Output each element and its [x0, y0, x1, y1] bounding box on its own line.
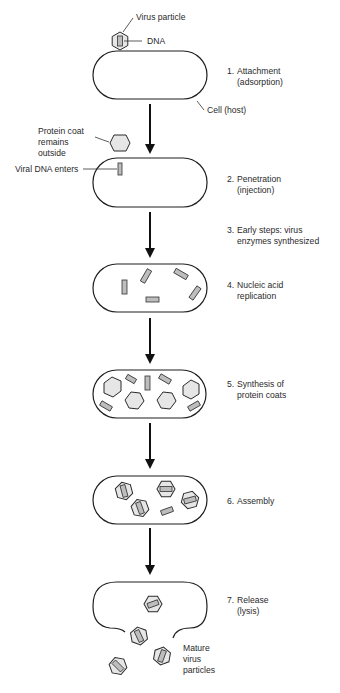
- arrow-down-icon: [145, 528, 155, 575]
- mature-label-2: virus: [183, 654, 201, 664]
- step-1-title: Attachment: [237, 66, 281, 76]
- protein-coat-label-1: Protein coat: [38, 126, 84, 136]
- step-5-title: Synthesis of: [237, 379, 284, 389]
- step-6-number: 6.: [227, 496, 234, 506]
- step-5-number: 5.: [227, 379, 234, 389]
- viral-dna-icon: [118, 163, 122, 175]
- cell-host-label: Cell (host): [207, 105, 246, 115]
- step-4-subtitle: replication: [237, 291, 276, 301]
- mature-virus-icon: [130, 626, 148, 646]
- step-3-number: 3.: [227, 225, 234, 235]
- step-2-penetration: Protein coat remains outside Viral DNA e…: [15, 126, 281, 207]
- step-2-number: 2.: [227, 174, 234, 184]
- step-1-number: 1.: [227, 66, 234, 76]
- protein-coat-label-3: outside: [38, 148, 66, 158]
- protein-coats: [104, 377, 199, 409]
- step-4-title: Nucleic acid: [237, 280, 284, 290]
- step-7-release: 7. Release (lysis) Mature virus particle…: [93, 582, 269, 677]
- arrow-down-icon: [145, 104, 155, 154]
- virus-replication-diagram: Virus particle DNA Cell (host) 1. Attach…: [0, 0, 340, 693]
- dna-fragments: [122, 268, 201, 302]
- step-1-subtitle: (adsorption): [237, 77, 283, 87]
- arrow-down-icon: [145, 212, 155, 258]
- step-3-subtitle: enzymes synthesized: [237, 236, 319, 246]
- mature-label-3: particles: [183, 665, 215, 675]
- host-cell: [93, 51, 207, 99]
- mature-virus-icon: [142, 592, 165, 615]
- assembled-virus-icon: [114, 480, 134, 501]
- free-dna-icon: [161, 507, 174, 516]
- mature-virus-icon: [153, 646, 171, 666]
- assembled-virus-icon: [155, 477, 178, 500]
- step-7-subtitle: (lysis): [237, 606, 260, 616]
- host-cell: [93, 158, 207, 207]
- arrow-down-icon: [145, 318, 155, 364]
- empty-protein-coat-icon: [110, 135, 130, 151]
- step-5-subtitle: protein coats: [237, 390, 286, 400]
- step-1-attachment: Virus particle DNA Cell (host) 1. Attach…: [93, 12, 283, 115]
- dna-label: DNA: [147, 36, 165, 46]
- arrow-down-icon: [145, 423, 155, 469]
- assembled-virus-icon: [176, 486, 204, 514]
- step-3-title: Early steps: virus: [237, 225, 302, 235]
- step-6-title: Assembly: [237, 496, 275, 506]
- step-5-protein-coat-synthesis: 5. Synthesis of protein coats: [93, 370, 286, 418]
- assembled-virus-icon: [130, 497, 151, 519]
- step-7-title: Release: [237, 595, 269, 605]
- mature-virus-icon: [108, 655, 129, 677]
- step-7-number: 7.: [227, 595, 234, 605]
- step-2-subtitle: (injection): [237, 185, 274, 195]
- step-2-title: Penetration: [237, 174, 281, 184]
- virus-particle-label: Virus particle: [136, 12, 186, 22]
- step-3-early-steps: 3. Early steps: virus enzymes synthesize…: [227, 225, 319, 246]
- mature-label-1: Mature: [183, 643, 210, 653]
- protein-coat-label-2: remains: [38, 137, 69, 147]
- step-4-number: 4.: [227, 280, 234, 290]
- viral-dna-enters-label: Viral DNA enters: [15, 164, 78, 174]
- step-4-nucleic-acid-replication: 4. Nucleic acid replication: [93, 264, 284, 312]
- step-6-assembly: 6. Assembly: [93, 476, 275, 524]
